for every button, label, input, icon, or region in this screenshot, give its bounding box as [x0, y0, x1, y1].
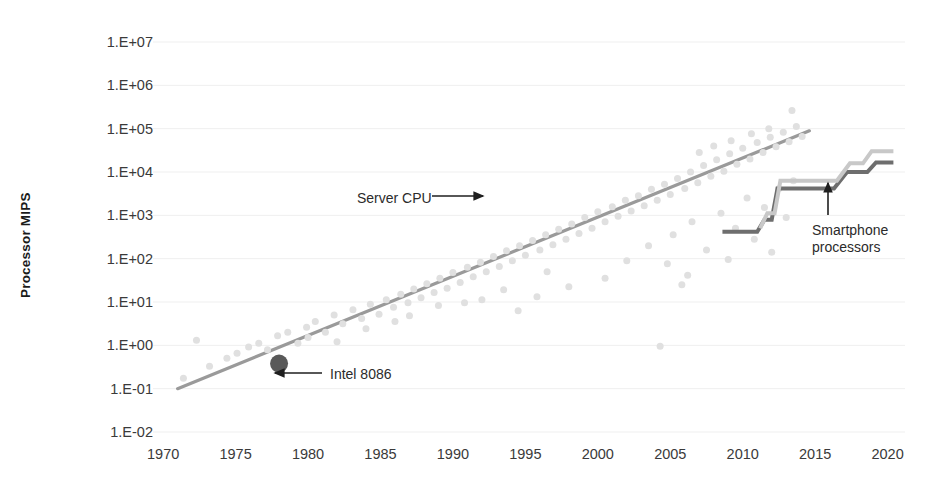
x-tick-label: 2010: [727, 446, 759, 462]
scatter-point: [687, 169, 694, 176]
x-tick-label: 1970: [147, 446, 179, 462]
scatter-point: [641, 202, 648, 209]
scatter-point: [694, 179, 701, 186]
y-tick-label: 1.E+05: [63, 121, 153, 137]
scatter-point: [549, 241, 556, 248]
scatter-point: [678, 281, 685, 288]
y-tick-label: 1.E+07: [63, 34, 153, 50]
scatter-point: [435, 302, 442, 309]
x-tick-label: 2005: [654, 446, 686, 462]
scatter-point: [760, 149, 767, 156]
scatter-point: [773, 143, 780, 150]
scatter-point: [536, 247, 543, 254]
annotation-label-smartphone-processors: Smartphone processors: [812, 222, 931, 256]
y-axis-tick-labels: 1.E+071.E+061.E+051.E+041.E+031.E+021.E+…: [0, 0, 153, 501]
scatter-point: [461, 299, 468, 306]
scatter-point: [575, 230, 582, 237]
scatter-point: [334, 338, 341, 345]
scatter-point: [654, 197, 661, 204]
scatter-point: [483, 268, 490, 275]
scatter-point: [768, 249, 775, 256]
scatter-point: [376, 311, 383, 318]
scatter-point: [568, 221, 575, 228]
scatter-point: [274, 332, 281, 339]
scatter-point: [786, 138, 793, 145]
scatter-point: [339, 320, 346, 327]
x-tick-label: 1995: [509, 446, 541, 462]
scatter-point: [206, 363, 213, 370]
scatter-point: [765, 125, 772, 132]
scatter-point: [544, 268, 551, 275]
scatter-point: [503, 247, 510, 254]
scatter-point: [533, 293, 540, 300]
scatter-point: [788, 107, 795, 114]
scatter-point: [322, 329, 329, 336]
scatter-point: [689, 218, 696, 225]
scatter-point: [294, 340, 301, 347]
scatter-point: [284, 329, 291, 336]
y-tick-label: 1.E+03: [63, 207, 153, 223]
scatter-point: [615, 213, 622, 220]
scatter-point: [562, 236, 569, 243]
gridlines: [153, 42, 905, 432]
scatter-point: [594, 208, 601, 215]
scatter-point: [431, 289, 438, 296]
scatter-point: [449, 269, 456, 276]
scatter-point: [542, 231, 549, 238]
scatter-point: [661, 181, 668, 188]
y-tick-label: 1.E+02: [63, 251, 153, 267]
scatter-point: [696, 149, 703, 156]
trend-line-group: [178, 131, 810, 389]
scatter-point: [703, 247, 710, 254]
scatter-point: [725, 256, 732, 263]
scatter-point: [245, 344, 252, 351]
scatter-point: [255, 340, 262, 347]
scatter-point: [522, 252, 529, 259]
annotation-arrows: [275, 183, 828, 373]
scatter-point: [515, 307, 522, 314]
scatter-point: [349, 306, 356, 313]
scatter-point: [496, 263, 503, 270]
scatter-point: [783, 214, 790, 221]
highlight-point-intel-8086: [270, 355, 288, 373]
scatter-point: [390, 304, 397, 311]
scatter-point: [728, 137, 735, 144]
scatter-point: [367, 301, 374, 308]
scatter-point: [193, 337, 200, 344]
processor-mips-chart: Processor MIPS 1.E+071.E+061.E+051.E+041…: [0, 0, 931, 501]
y-tick-label: 1.E+01: [63, 294, 153, 310]
y-tick-label: 1.E-02: [63, 424, 153, 440]
scatter-point: [234, 350, 241, 357]
scatter-point: [418, 294, 425, 301]
scatter-point: [657, 343, 664, 350]
scatter-point: [793, 123, 800, 130]
scatter-point: [470, 273, 477, 280]
scatter-point: [410, 286, 417, 293]
scatter-points-group: [180, 107, 806, 382]
scatter-point: [761, 204, 768, 211]
scatter-point: [312, 318, 319, 325]
scatter-point: [464, 264, 471, 271]
scatter-point: [331, 312, 338, 319]
scatter-point: [565, 283, 572, 290]
x-tick-label: 2020: [871, 446, 903, 462]
scatter-point: [681, 185, 688, 192]
x-tick-label: 1990: [437, 446, 469, 462]
scatter-point: [767, 134, 774, 141]
x-tick-label: 1975: [219, 446, 251, 462]
scatter-point: [305, 334, 312, 341]
scatter-point: [516, 242, 523, 249]
scatter-point: [717, 210, 724, 217]
annotation-label-server-cpu: Server CPU: [357, 190, 432, 207]
scatter-point: [509, 257, 516, 264]
scatter-point: [684, 272, 691, 279]
y-tick-label: 1.E+00: [63, 337, 153, 353]
scatter-point: [700, 162, 707, 169]
scatter-point: [490, 253, 497, 260]
scatter-point: [710, 143, 717, 150]
scatter-point: [358, 315, 365, 322]
scatter-point: [264, 346, 271, 353]
scatter-point: [754, 139, 761, 146]
step-lines-group: [722, 151, 893, 232]
scatter-point: [500, 286, 507, 293]
